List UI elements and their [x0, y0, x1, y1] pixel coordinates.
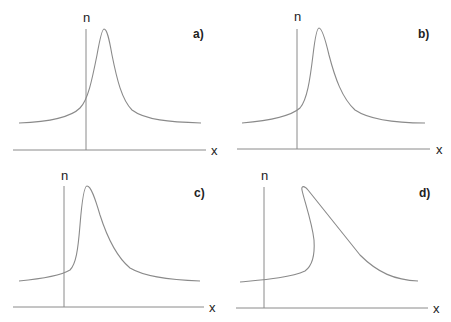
x-axis-label: x	[436, 142, 443, 157]
panel-d: n x d)	[236, 168, 440, 316]
panel-b: n x b)	[237, 9, 443, 157]
panel-label: a)	[193, 27, 204, 41]
x-axis-label: x	[211, 143, 218, 158]
figure: n x a) n x b) n x c) n x d)	[0, 0, 451, 322]
panel-label: d)	[419, 186, 430, 200]
y-axis-label: n	[61, 168, 68, 183]
panel-label: c)	[194, 186, 205, 200]
panel-label: b)	[418, 27, 429, 41]
curve	[242, 28, 425, 123]
y-axis-label: n	[294, 9, 301, 24]
curve	[19, 186, 200, 281]
y-axis-label: n	[261, 168, 268, 183]
x-axis-label: x	[209, 300, 216, 315]
panel-c: n x c)	[13, 168, 216, 315]
curve	[240, 187, 418, 282]
x-axis-label: x	[433, 301, 440, 316]
y-axis-label: n	[83, 10, 90, 25]
panel-a: n x a)	[13, 10, 218, 158]
curve	[19, 29, 201, 123]
